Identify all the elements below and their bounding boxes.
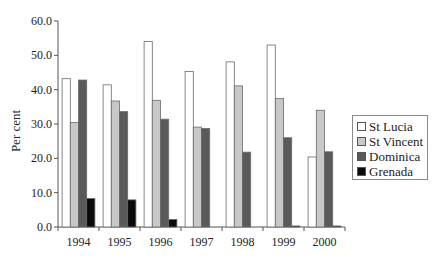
bar-st-lucia-1998: [226, 62, 234, 227]
legend-swatch-icon: [357, 167, 366, 176]
y-tick-label: 20.0: [31, 151, 52, 165]
bar-dominica-1997: [202, 128, 210, 227]
x-tick-label: 1996: [149, 235, 173, 249]
legend-item-st-lucia: St Lucia: [357, 119, 427, 134]
bar-grenada-1995: [128, 200, 136, 227]
bar-dominica-1995: [120, 112, 128, 227]
y-tick-label: 0.0: [37, 220, 52, 234]
bar-grenada-1996: [169, 219, 177, 227]
y-tick-label: 10.0: [31, 186, 52, 200]
legend-swatch-icon: [357, 122, 366, 131]
x-tick-label: 1999: [272, 235, 296, 249]
y-axis: 0.010.020.030.040.050.060.0: [31, 14, 58, 234]
x-tick-label: 1997: [190, 235, 214, 249]
x-axis: 1994199519961997199819992000: [58, 227, 345, 249]
bar-st-lucia-2000: [308, 157, 316, 227]
legend-item-dominica: Dominica: [357, 149, 427, 164]
x-tick-label: 1995: [108, 235, 132, 249]
legend-label: Dominica: [369, 149, 420, 165]
bar-grenada-2000: [333, 226, 341, 227]
bar-st-lucia-1996: [144, 42, 152, 227]
y-tick-label: 60.0: [31, 14, 52, 28]
bar-dominica-1996: [161, 119, 169, 227]
bar-grenada-1999: [292, 226, 300, 227]
legend-item-grenada: Grenada: [357, 164, 427, 179]
bar-st-vincent-1998: [234, 86, 242, 227]
x-tick-label: 1994: [67, 235, 91, 249]
bar-dominica-1994: [79, 80, 87, 227]
bars: [62, 42, 341, 227]
y-tick-label: 40.0: [31, 83, 52, 97]
x-tick-label: 2000: [313, 235, 337, 249]
x-tick-label: 1998: [231, 235, 255, 249]
bar-st-vincent-1999: [275, 99, 283, 227]
bar-dominica-1999: [284, 138, 292, 227]
bar-dominica-1998: [243, 152, 251, 227]
y-tick-label: 50.0: [31, 48, 52, 62]
bar-st-vincent-2000: [316, 110, 324, 227]
bar-st-vincent-1995: [111, 101, 119, 227]
bar-st-vincent-1994: [70, 123, 78, 227]
bar-st-lucia-1999: [267, 45, 275, 227]
legend-label: St Vincent: [369, 134, 423, 150]
bar-st-lucia-1994: [62, 79, 70, 227]
legend-item-st-vincent: St Vincent: [357, 134, 427, 149]
bar-st-vincent-1997: [193, 127, 201, 227]
bar-st-vincent-1996: [152, 100, 160, 227]
legend-swatch-icon: [357, 137, 366, 146]
bar-st-lucia-1995: [103, 85, 111, 227]
legend: St Lucia St Vincent Dominica Grenada: [352, 115, 428, 180]
bar-grenada-1994: [87, 199, 95, 227]
legend-label: Grenada: [369, 164, 413, 180]
y-tick-label: 30.0: [31, 117, 52, 131]
bar-st-lucia-1997: [185, 71, 193, 227]
y-axis-title: Per cent: [8, 109, 23, 152]
bar-dominica-2000: [325, 152, 333, 227]
legend-swatch-icon: [357, 152, 366, 161]
legend-label: St Lucia: [369, 119, 413, 135]
